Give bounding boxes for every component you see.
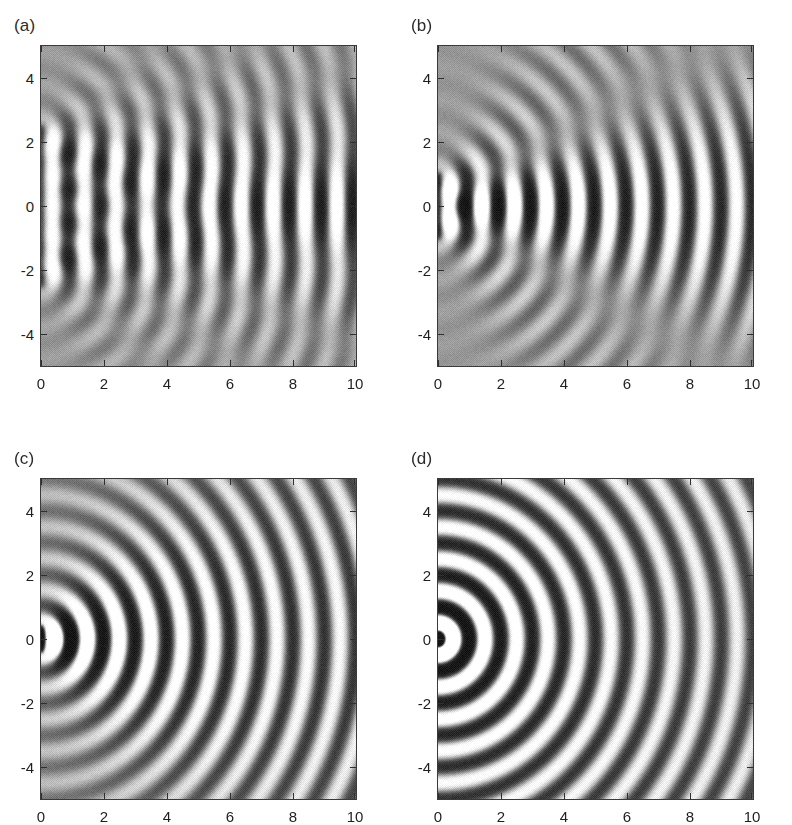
xtick-bottom-b-4 [690,360,691,366]
ytick-left-a-3 [41,142,47,143]
yticklabel-a-4: 4 [6,70,34,87]
xtick-bottom-a-1 [104,360,105,366]
xtick-bottom-d-3 [627,793,628,799]
ytick-left-c-1 [41,703,47,704]
plot-area-d [437,478,754,800]
ytick-left-c-3 [41,575,47,576]
ytick-right-d-0 [747,767,753,768]
yticklabel-a-0: -4 [6,326,34,343]
ytick-left-d-3 [438,575,444,576]
xticklabel-d-5: 10 [744,808,761,825]
ytick-left-a-0 [41,334,47,335]
panel-b: (b)0246810-4-2024 [0,0,792,825]
panel-c: (c)0246810-4-2024 [0,0,792,825]
xticklabel-b-5: 10 [744,375,761,392]
xtick-top-c-2 [167,479,168,485]
ytick-left-d-4 [438,511,444,512]
yticklabel-b-2: 0 [403,198,431,215]
xtick-top-b-0 [438,46,439,52]
xtick-top-b-2 [564,46,565,52]
xtick-bottom-b-3 [627,360,628,366]
ytick-right-d-1 [747,703,753,704]
yticklabel-d-2: 0 [403,631,431,648]
ytick-right-b-0 [747,334,753,335]
ytick-right-c-4 [350,511,356,512]
yticklabel-b-0: -4 [403,326,431,343]
wave-field-image-a [41,46,356,366]
yticklabel-a-2: 0 [6,198,34,215]
xtick-bottom-a-4 [293,360,294,366]
xtick-bottom-b-0 [438,360,439,366]
yticklabel-b-3: 2 [403,134,431,151]
plot-area-c [40,478,357,800]
plot-area-b [437,45,754,367]
xticklabel-d-2: 4 [560,808,568,825]
xticklabel-b-4: 8 [686,375,694,392]
xticklabel-c-2: 4 [163,808,171,825]
xticklabel-d-0: 0 [434,808,442,825]
panel-label-a: (a) [14,16,35,36]
panel-a: (a)0246810-4-2024 [0,0,792,825]
ytick-left-c-4 [41,511,47,512]
xticklabel-c-1: 2 [100,808,108,825]
xtick-top-d-1 [501,479,502,485]
xtick-bottom-b-1 [501,360,502,366]
xticklabel-a-4: 8 [289,375,297,392]
xtick-bottom-b-2 [564,360,565,366]
yticklabel-c-0: -4 [6,759,34,776]
xtick-top-b-1 [501,46,502,52]
xticklabel-c-0: 0 [37,808,45,825]
ytick-right-d-2 [747,639,753,640]
ytick-right-a-3 [350,142,356,143]
ytick-left-b-0 [438,334,444,335]
ytick-right-b-2 [747,206,753,207]
ytick-right-a-2 [350,206,356,207]
wave-field-image-c [41,479,356,799]
yticklabel-c-1: -2 [6,695,34,712]
xticklabel-a-1: 2 [100,375,108,392]
xticklabel-c-4: 8 [289,808,297,825]
xticklabel-a-5: 10 [347,375,364,392]
xtick-top-a-5 [354,46,355,52]
xticklabel-d-1: 2 [497,808,505,825]
xtick-bottom-c-4 [293,793,294,799]
xtick-top-d-0 [438,479,439,485]
ytick-left-a-2 [41,206,47,207]
ytick-right-c-0 [350,767,356,768]
xtick-bottom-d-0 [438,793,439,799]
panel-d: (d)0246810-4-2024 [0,0,792,825]
xticklabel-b-1: 2 [497,375,505,392]
xtick-top-c-1 [104,479,105,485]
yticklabel-b-1: -2 [403,262,431,279]
xtick-bottom-b-5 [751,360,752,366]
ytick-left-c-0 [41,767,47,768]
xtick-top-a-0 [41,46,42,52]
ytick-right-c-3 [350,575,356,576]
xticklabel-d-3: 6 [623,808,631,825]
ytick-left-d-0 [438,767,444,768]
ytick-right-a-0 [350,334,356,335]
ytick-left-c-2 [41,639,47,640]
xtick-top-c-4 [293,479,294,485]
ytick-right-c-1 [350,703,356,704]
xticklabel-b-0: 0 [434,375,442,392]
ytick-right-d-3 [747,575,753,576]
xtick-bottom-c-1 [104,793,105,799]
xtick-bottom-c-3 [230,793,231,799]
yticklabel-a-3: 2 [6,134,34,151]
wave-field-image-d [438,479,753,799]
xtick-bottom-a-0 [41,360,42,366]
ytick-right-b-4 [747,78,753,79]
xtick-bottom-d-4 [690,793,691,799]
xtick-bottom-c-5 [354,793,355,799]
xtick-top-a-1 [104,46,105,52]
xtick-bottom-a-5 [354,360,355,366]
plot-area-a [40,45,357,367]
ytick-right-b-1 [747,270,753,271]
xtick-top-d-2 [564,479,565,485]
panel-label-d: (d) [411,449,432,469]
xticklabel-c-5: 10 [347,808,364,825]
ytick-right-a-1 [350,270,356,271]
ytick-left-a-4 [41,78,47,79]
xtick-top-a-3 [230,46,231,52]
